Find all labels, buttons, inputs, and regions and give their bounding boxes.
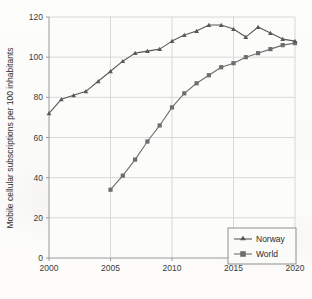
y-tick-label: 100 [29,52,43,62]
data-point-world [207,73,211,77]
y-tick-label: 120 [29,12,43,22]
legend-label-norway: Norway [256,234,286,244]
data-point-world [108,188,112,192]
y-tick-label: 20 [34,213,44,223]
x-tick-label: 2000 [40,263,59,273]
y-axis-title: Mobile cellular subscriptions per 100 in… [5,48,15,229]
data-point-world [182,91,186,95]
y-tick-label: 80 [34,92,44,102]
legend-label-world: World [256,249,278,259]
data-point-world [158,123,162,127]
y-tick-labels: 020406080100120 [29,12,43,263]
line-chart-svg: 020406080100120 20002005201020152020 Mob… [0,0,312,299]
x-tick-label: 2010 [163,263,182,273]
square-marker-icon [240,251,246,257]
data-point-world [145,139,149,143]
data-point-world [244,55,248,59]
x-tick-label: 2005 [101,263,120,273]
chart-legend: Norway World [228,228,296,264]
data-point-world [256,51,260,55]
data-point-world [170,105,174,109]
chart-figure: 020406080100120 20002005201020152020 Mob… [0,0,312,299]
y-tick-label: 40 [34,173,44,183]
data-point-world [219,65,223,69]
data-point-world [281,43,285,47]
data-point-world [195,81,199,85]
data-point-world [231,61,235,65]
data-point-world [268,47,272,51]
y-tick-label: 60 [34,133,44,143]
y-tick-label: 0 [38,253,43,263]
data-point-world [133,157,137,161]
data-point-world [121,174,125,178]
